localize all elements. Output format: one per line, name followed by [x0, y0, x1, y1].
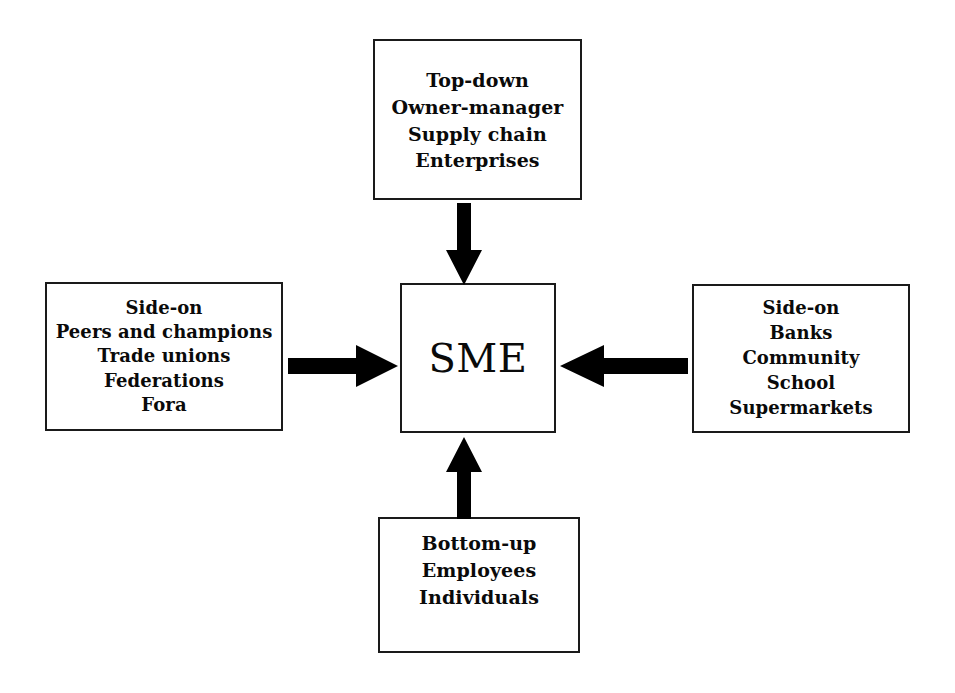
node-text-block: Side-on Banks Community School Supermark… — [694, 296, 908, 420]
node-box-side-on-external: Side-on Banks Community School Supermark… — [692, 284, 910, 433]
arrow-up-icon — [444, 437, 484, 519]
arrow-left-icon — [560, 340, 688, 392]
node-line: Side-on — [125, 296, 202, 320]
node-line: Employees — [422, 557, 537, 584]
node-box-sme-center: SME — [400, 283, 556, 433]
node-line: Bottom-up — [422, 530, 537, 557]
node-line: Peers and champions — [56, 320, 273, 344]
node-text-block: Bottom-up Employees Individuals — [380, 530, 578, 611]
node-line: Trade unions — [98, 344, 231, 368]
node-line: Banks — [769, 321, 832, 346]
node-text-block: Side-on Peers and champions Trade unions… — [47, 296, 281, 417]
node-line: Federations — [104, 369, 224, 393]
node-line: Supermarkets — [729, 396, 872, 421]
node-line: Supply chain — [408, 121, 547, 148]
node-box-side-on-peers: Side-on Peers and champions Trade unions… — [45, 282, 283, 431]
diagram-canvas: Top-down Owner-manager Supply chain Ente… — [0, 0, 955, 693]
node-line: Fora — [141, 393, 186, 417]
node-line: Owner-manager — [392, 94, 564, 121]
node-line: Enterprises — [415, 147, 539, 174]
arrow-down-icon — [444, 203, 484, 285]
arrow-right-icon — [288, 340, 398, 392]
node-line: Community — [742, 346, 859, 371]
center-label: SME — [428, 338, 527, 378]
node-text-block: Top-down Owner-manager Supply chain Ente… — [375, 67, 580, 175]
node-line: School — [767, 371, 836, 396]
node-line: Top-down — [426, 67, 529, 94]
node-line: Individuals — [419, 584, 539, 611]
node-box-top-down: Top-down Owner-manager Supply chain Ente… — [373, 39, 582, 200]
node-line: Side-on — [762, 296, 839, 321]
node-box-bottom-up: Bottom-up Employees Individuals — [378, 517, 580, 653]
